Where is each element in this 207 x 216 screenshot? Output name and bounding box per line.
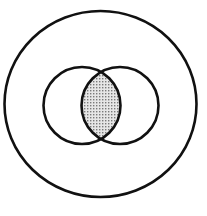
venn-svg (0, 0, 207, 216)
venn-diagram: Universal set with two overlapping sets;… (0, 0, 207, 216)
